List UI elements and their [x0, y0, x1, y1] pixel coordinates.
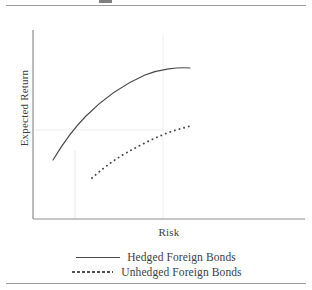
gridlines — [33, 35, 163, 219]
legend-label-hedged: Hedged Foreign Bonds — [127, 251, 236, 263]
legend-swatch-dotted-line-icon — [70, 267, 114, 277]
series-line-hedged — [53, 68, 190, 160]
series-line-unhedged — [92, 126, 190, 178]
legend-swatch-solid-line-icon — [76, 252, 120, 262]
legend-item-unhedged: Unhedged Foreign Bonds — [0, 264, 312, 279]
legend-item-hedged: Hedged Foreign Bonds — [0, 249, 312, 264]
x-axis-label: Risk — [33, 226, 305, 238]
chart-legend: Hedged Foreign Bonds Unhedged Foreign Bo… — [0, 249, 312, 279]
legend-label-unhedged: Unhedged Foreign Bonds — [121, 266, 241, 278]
figure-bottom-rule — [6, 283, 306, 284]
chart-plot-area — [0, 0, 312, 240]
figure-container: Expected Return Risk Hedged Foreign Bond… — [0, 0, 312, 290]
y-axis-label: Expected Return — [18, 48, 30, 168]
